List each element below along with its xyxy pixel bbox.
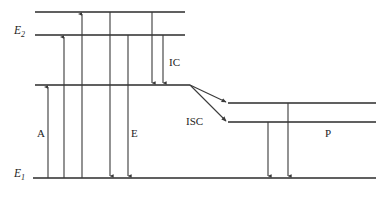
emission-transitions bbox=[110, 12, 128, 176]
energy-levels bbox=[33, 12, 376, 178]
label-internal-conversion: IC bbox=[169, 56, 180, 68]
jablonski-diagram: E2 E1 A E IC ISC P bbox=[0, 0, 386, 198]
label-intersystem-crossing: ISC bbox=[186, 115, 203, 127]
phosphorescence-transitions bbox=[268, 103, 288, 176]
diagram-canvas: E2 E1 A E IC ISC P bbox=[0, 0, 386, 198]
label-e2: E2 bbox=[13, 24, 25, 39]
intersystem-crossing-arrow-1 bbox=[190, 85, 226, 102]
label-emission: E bbox=[131, 127, 138, 139]
internal-conversion-transitions bbox=[152, 12, 163, 83]
absorption-transitions bbox=[48, 14, 82, 178]
label-phosphorescence: P bbox=[325, 127, 331, 139]
label-absorption: A bbox=[37, 127, 45, 139]
label-e1: E1 bbox=[13, 167, 25, 182]
